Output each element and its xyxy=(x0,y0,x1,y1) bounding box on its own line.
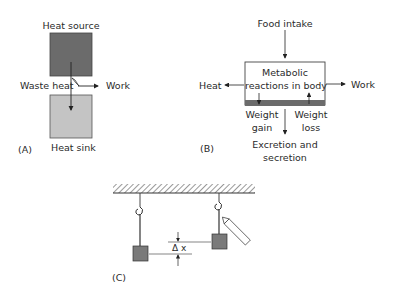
panel-c-tag: (C) xyxy=(112,272,126,283)
heat-sink-label: Heat sink xyxy=(51,142,96,153)
food-intake-label: Food intake xyxy=(245,18,325,29)
metabolic-line1: Metabolic xyxy=(245,67,325,78)
weight-loss-line1: Weight xyxy=(293,109,329,120)
excretion-line1: Excretion and xyxy=(245,139,325,150)
right-mass xyxy=(212,234,227,249)
heat-label-b: Heat xyxy=(199,80,222,91)
weight-gain-line1: Weight xyxy=(244,109,280,120)
weight-gain-line2: gain xyxy=(244,122,280,133)
left-hook-icon xyxy=(136,207,143,215)
excretion-line2: secretion xyxy=(245,152,325,163)
delta-x-label: Δ x xyxy=(172,243,186,254)
weight-loss-line2: loss xyxy=(293,122,329,133)
work-label-b: Work xyxy=(351,79,375,90)
left-mass xyxy=(133,246,148,261)
right-hook-icon xyxy=(215,202,222,210)
ceiling xyxy=(113,184,255,193)
heat-source-label: Heat source xyxy=(38,20,104,31)
panel-b-tag: (B) xyxy=(200,143,214,154)
body-mass-band xyxy=(245,100,325,106)
waste-heat-label: Waste heat xyxy=(20,80,74,91)
work-label-a: Work xyxy=(106,80,130,91)
panel-a-tag: (A) xyxy=(18,144,32,155)
metabolic-line2: reactions in body xyxy=(245,80,325,91)
